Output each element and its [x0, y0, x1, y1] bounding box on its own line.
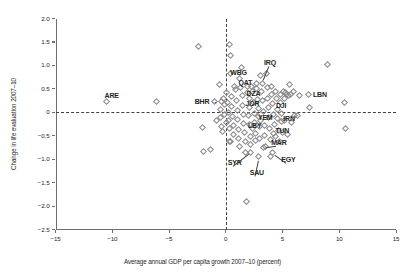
scatter-chart: Change in life evaluation 2007–10 Averag… [0, 0, 405, 278]
y-tick-label: −2.0 [24, 202, 50, 209]
x-tick-label: 0 [212, 235, 240, 242]
label-qat: QAT [239, 79, 253, 86]
label-irn: IRN [283, 115, 294, 122]
x-tick-mark [169, 230, 170, 233]
label-irq: IRQ [264, 59, 276, 66]
y-tick-mark [52, 135, 55, 136]
y-tick-label: 0 [24, 108, 50, 115]
label-dji: DJI [276, 102, 286, 109]
label-dza: DZA [247, 90, 261, 97]
x-tick-mark [225, 230, 226, 233]
label-mar: MAR [271, 139, 286, 146]
x-tick-label: −5 [155, 235, 183, 242]
x-tick-label: 15 [382, 235, 405, 242]
y-tick-mark [52, 41, 55, 42]
y-tick-label: 0.5 [24, 85, 50, 92]
label-are: ARE [105, 92, 119, 99]
label-jor: JOR [246, 100, 260, 107]
y-tick-mark [52, 206, 55, 207]
label-lby: LBY [248, 122, 261, 129]
y-tick-label: 1.5 [24, 38, 50, 45]
y-tick-label: −1.5 [24, 179, 50, 186]
y-tick-mark [52, 159, 55, 160]
x-tick-mark [282, 230, 283, 233]
y-tick-label: 1.0 [24, 61, 50, 68]
y-tick-mark [52, 18, 55, 19]
x-tick-mark [112, 230, 113, 233]
y-tick-label: −2.5 [24, 226, 50, 233]
label-tun: TUN [275, 127, 289, 134]
y-tick-label: 2.0 [24, 15, 50, 22]
y-tick-mark [52, 182, 55, 183]
x-tick-label: 10 [325, 235, 353, 242]
label-bhr: BHR → [195, 98, 218, 105]
x-tick-label: 5 [269, 235, 297, 242]
y-tick-label: −0.5 [24, 132, 50, 139]
label-wbg: WBG [230, 69, 247, 76]
label-yem: YEM [258, 114, 273, 121]
x-tick-label: −15 [42, 235, 70, 242]
x-axis-title: Average annual GDP per capita growth 200… [0, 258, 405, 265]
y-tick-mark [52, 88, 55, 89]
x-tick-mark [339, 230, 340, 233]
x-tick-label: −10 [98, 235, 126, 242]
y-axis-title: Change in life evaluation 2007–10 [10, 78, 17, 170]
label-lbn: LBN [313, 91, 327, 98]
x-tick-mark [396, 230, 397, 233]
y-tick-mark [52, 65, 55, 66]
y-tick-label: −1.0 [24, 155, 50, 162]
x-tick-mark [55, 230, 56, 233]
